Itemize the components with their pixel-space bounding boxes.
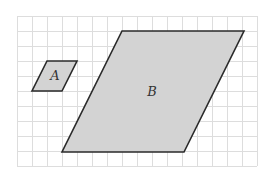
grid-diagram: A B bbox=[0, 0, 268, 175]
label-a: A bbox=[49, 68, 59, 83]
label-b: B bbox=[146, 84, 157, 99]
